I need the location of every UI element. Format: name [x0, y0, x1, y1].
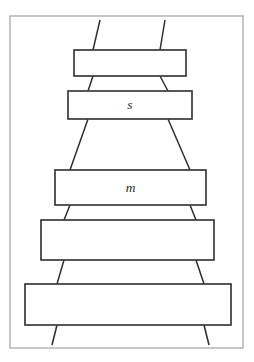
- tangle-box-label: m: [126, 180, 136, 195]
- tangle-box-rect: [41, 220, 214, 260]
- tangle-box-1: [74, 50, 186, 76]
- tangle-box-label: s: [127, 97, 132, 112]
- tangle-box-2: s: [68, 91, 192, 119]
- tangle-box-5: [25, 284, 231, 325]
- tangle-box-3: m: [55, 170, 206, 205]
- tangle-box-rect: [25, 284, 231, 325]
- tangle-box-rect: [74, 50, 186, 76]
- tangle-box-4: [41, 220, 214, 260]
- tangle-diagram: s m: [0, 0, 254, 362]
- figure-root: s m: [0, 0, 254, 362]
